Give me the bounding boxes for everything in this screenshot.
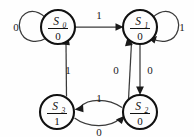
transition-s0-to-s1: 1: [76, 9, 124, 31]
transition-label-s1-s2: 0: [147, 64, 153, 76]
transition-label-s3-s0: 1: [65, 64, 71, 76]
transition-s3-to-s2-path: [75, 118, 121, 126]
state-node-s2-output: 0: [137, 115, 143, 127]
state-node-s3-output: 1: [54, 115, 60, 127]
state-node-s0[interactable]: S 0 0: [41, 10, 75, 44]
state-machine-graph: 0 1 1 0 0 1: [0, 0, 194, 137]
transition-s2-to-s1-path: [129, 43, 132, 100]
state-node-s1-output: 0: [137, 30, 143, 42]
transition-s1-to-s2-arrowhead: [136, 87, 144, 96]
transition-label-s0-s1: 1: [96, 9, 102, 21]
transition-s3-to-s2: 0: [75, 116, 126, 138]
state-node-s3-name: S: [52, 100, 58, 112]
state-node-s2[interactable]: S 2 0: [123, 95, 157, 129]
transition-label-s2-s1: 0: [113, 64, 119, 76]
transition-label-s1-s1: 1: [179, 21, 185, 33]
state-node-s0-name: S: [53, 15, 59, 27]
transition-s2-to-s1: 0: [113, 38, 133, 100]
transition-label-s3-s2: 0: [96, 126, 102, 137]
transition-label-s0-s0: 0: [13, 21, 19, 33]
transition-s1-to-s2: 0: [136, 44, 153, 95]
state-node-s3[interactable]: S 3 1: [40, 95, 74, 129]
transition-s2-to-s3-arrowhead: [75, 105, 84, 113]
transition-s3-to-s0: 1: [62, 38, 71, 97]
state-node-s1[interactable]: S 1 0: [123, 10, 157, 44]
transition-label-s2-s3: 1: [96, 92, 102, 104]
state-node-s1-name: S: [135, 15, 141, 27]
state-node-s2-name: S: [135, 100, 141, 112]
state-diagram-canvas: 0 1 1 0 0 1: [0, 0, 194, 137]
state-node-s0-output: 0: [55, 30, 61, 42]
transition-s2-to-s3: 1: [75, 92, 123, 112]
